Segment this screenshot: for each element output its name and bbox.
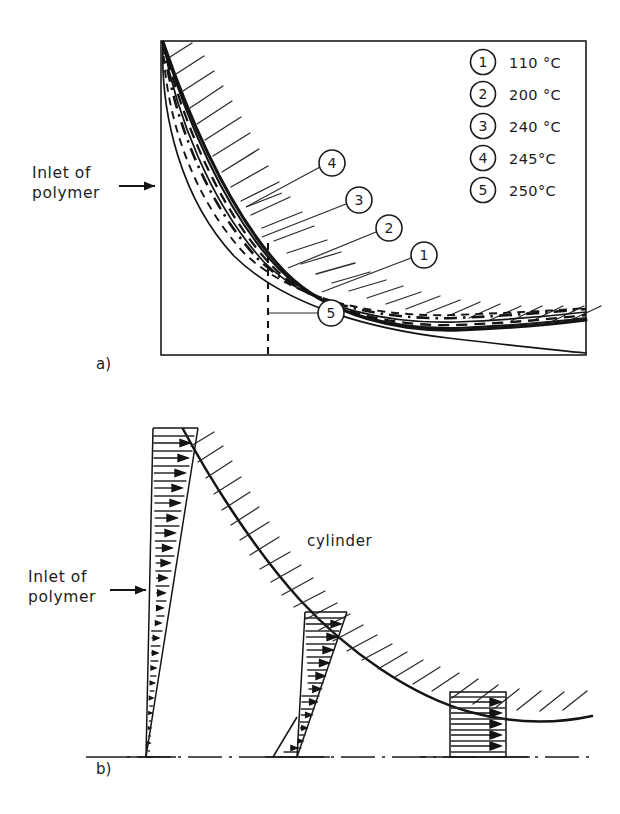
inlet-arrow-a-icon [119,182,155,191]
inlet-annotation-a: Inlet of polymer [32,164,155,202]
callout-2-label: 2 [385,220,394,236]
legend-marker-4-number: 4 [479,150,488,166]
callout-4-label: 4 [328,155,337,171]
callout-5-label: 5 [327,305,336,321]
inlet-label-b-line2: polymer [28,588,96,606]
legend-value-4: 245°C [509,151,556,167]
callout-3: 3 [346,187,372,213]
inlet-label-a-line1: Inlet of [32,164,91,182]
callout-1: 1 [411,242,437,268]
legend-item-2: 2 200 °C [471,82,562,107]
legend-value-3: 240 °C [509,119,561,135]
velocity-profile-1 [120,428,198,757]
figure-canvas: 4 3 2 1 5 1 110 °C [0,0,620,814]
cylinder-wall-curve-b [183,429,592,722]
legend-marker-3-number: 3 [479,118,488,134]
legend-item-5: 5 250°C [471,178,557,203]
legend-marker-2-number: 2 [479,86,488,102]
curve-4-245C [163,42,586,318]
inlet-label-a-line2: polymer [32,184,100,202]
legend-value-1: 110 °C [509,55,561,71]
panel-a: 4 3 2 1 5 1 110 °C [32,41,601,373]
legend-marker-1-number: 1 [479,54,488,70]
cylinder-wall-hatching-b [191,432,587,711]
legend-panel-a: 1 110 °C 2 200 °C 3 240 °C 4 245°C 5 [471,50,562,203]
panel-b: cylinder Inlet of polymer b) [28,428,596,778]
inlet-annotation-b: Inlet of polymer [28,568,146,606]
legend-marker-5-number: 5 [479,182,488,198]
callout-1-label: 1 [420,247,429,263]
inlet-arrow-b-icon [110,586,146,595]
figure-page: 4 3 2 1 5 1 110 °C [0,0,620,814]
legend-item-4: 4 245°C [471,146,557,171]
barrel-wall-hatching-a [170,43,601,321]
velocity-profile-3-arrows [451,698,501,750]
callout-5: 5 [318,300,344,326]
panel-a-callouts: 4 3 2 1 5 [318,150,437,326]
callout-4: 4 [319,150,345,176]
velocity-profile-2-arrows [290,620,341,750]
legend-item-3: 3 240 °C [471,114,562,139]
legend-item-1: 1 110 °C [471,50,562,75]
cylinder-label: cylinder [307,532,373,550]
panel-a-label: a) [96,355,111,373]
panel-b-label: b) [96,760,111,778]
legend-value-5: 250°C [509,183,556,199]
curve-5-250C [163,42,586,315]
callout-3-label: 3 [355,192,364,208]
inlet-label-b-line1: Inlet of [28,568,87,586]
velocity-profile-3 [420,692,530,757]
velocity-profile-1-arrows [148,439,190,744]
callout-2: 2 [376,215,402,241]
legend-value-2: 200 °C [509,87,561,103]
